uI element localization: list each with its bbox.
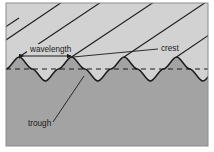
wave-diagram-canvas: wavelength crest trough bbox=[0, 0, 214, 152]
wave-diagram-figure: wavelength crest trough bbox=[0, 0, 214, 152]
crest-label: crest bbox=[161, 44, 179, 53]
trough-label: trough bbox=[28, 119, 52, 128]
wavelength-label: wavelength bbox=[29, 45, 72, 54]
